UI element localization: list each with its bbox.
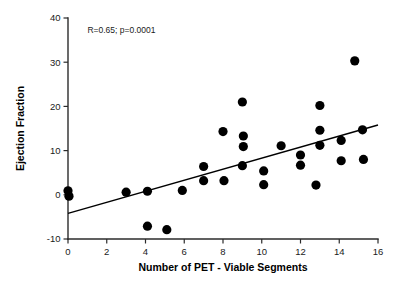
data-point [64,192,73,201]
data-point [162,225,171,234]
x-tick-label: 16 [373,246,384,257]
data-point [199,162,208,171]
x-tick-label: 2 [104,246,109,257]
scatter-plot: -100102030400246810121416Number of PET -… [0,0,405,284]
data-point [296,150,305,159]
data-point [218,127,227,136]
chart-figure: -100102030400246810121416Number of PET -… [0,0,405,284]
correlation-annotation: R=0.65; p=0.0001 [87,25,155,35]
data-point [277,141,286,150]
data-point [239,142,248,151]
x-tick-label: 12 [295,246,306,257]
y-tick-label: 10 [50,145,61,156]
y-tick-label: 20 [50,101,61,112]
x-axis-ticks: 0246810121416 [65,239,383,257]
y-tick-label: 40 [50,12,61,23]
y-axis-ticks: -10010203040 [47,12,68,244]
y-axis-title: Ejection Fraction [14,86,26,171]
y-tick-label: 0 [55,189,60,200]
x-tick-label: 4 [143,246,148,257]
x-tick-label: 8 [220,246,225,257]
data-point [143,222,152,231]
data-point [178,186,187,195]
data-point [350,56,359,65]
data-point [239,131,248,140]
data-point [315,126,324,135]
y-tick-label: 30 [50,57,61,68]
x-tick-label: 0 [65,246,70,257]
data-point [238,161,247,170]
data-point [122,188,131,197]
data-point [219,176,228,185]
data-point [199,176,208,185]
data-point [259,166,268,175]
data-point [259,180,268,189]
data-point [315,141,324,150]
x-axis-title: Number of PET - Viable Segments [138,261,307,273]
data-point [337,156,346,165]
x-tick-label: 10 [256,246,267,257]
data-point [359,155,368,164]
data-point [238,97,247,106]
data-point [296,161,305,170]
data-points-group [63,56,368,234]
data-point [337,136,346,145]
y-tick-label: -10 [47,233,61,244]
x-tick-label: 6 [182,246,187,257]
data-point [358,125,367,134]
x-tick-label: 14 [334,246,345,257]
data-point [311,180,320,189]
data-point [143,187,152,196]
data-point [315,101,324,110]
regression-line [68,125,378,213]
